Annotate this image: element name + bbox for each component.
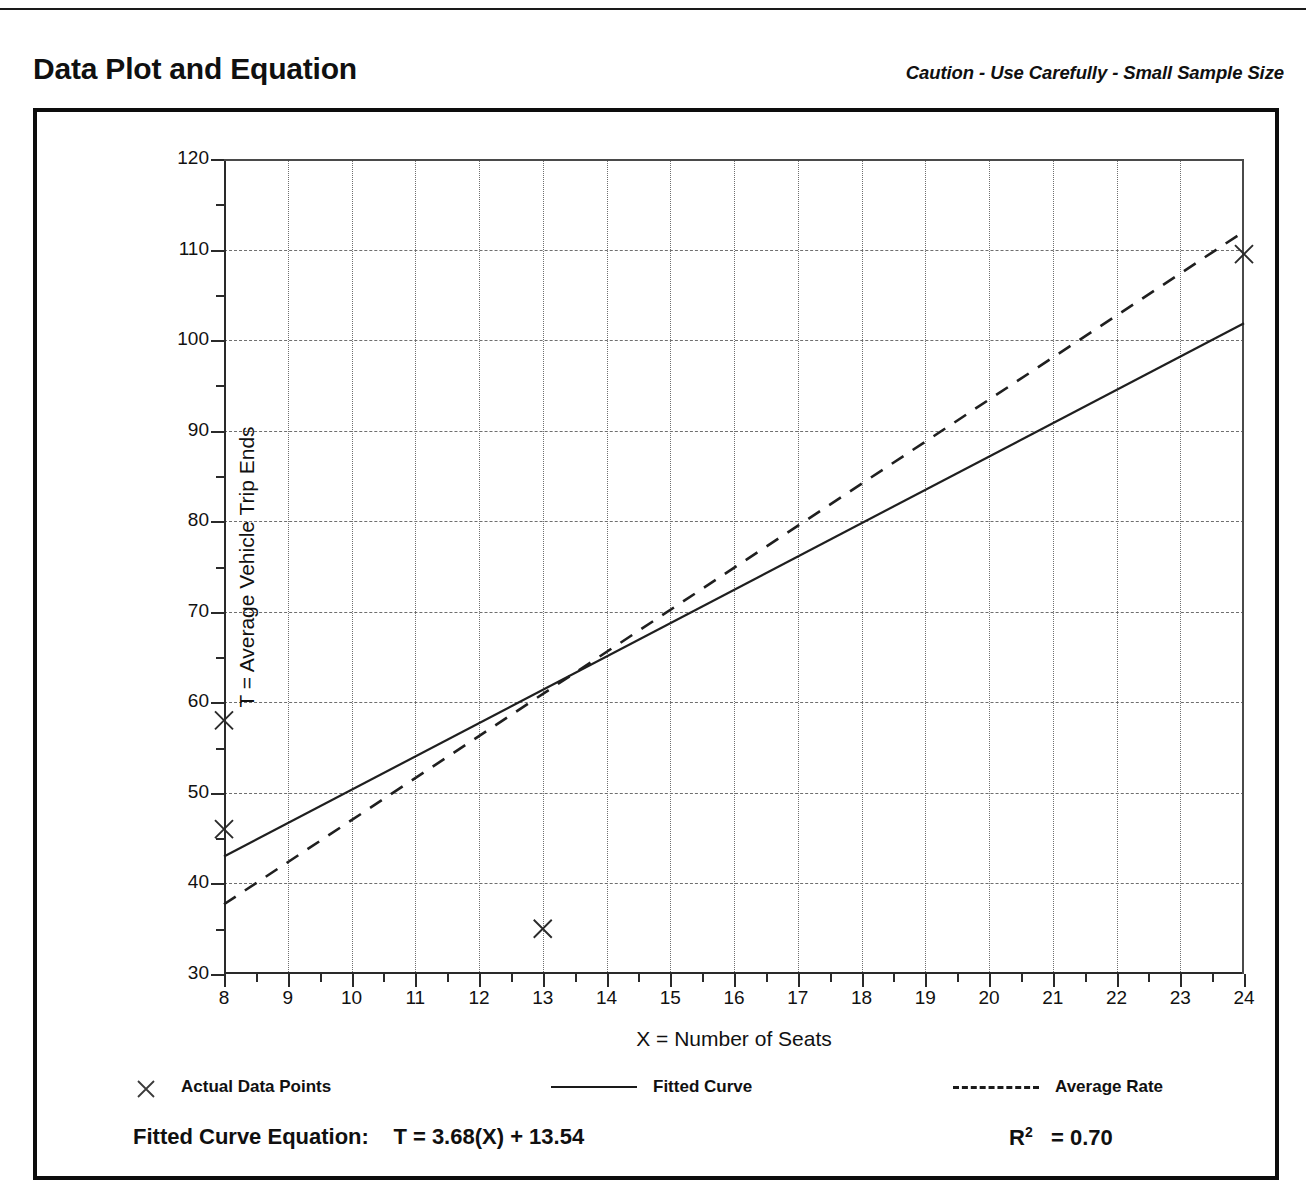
y-tick <box>211 159 224 161</box>
x-tick-minor <box>702 974 704 982</box>
legend-item-average-rate: Average Rate <box>953 1072 1163 1102</box>
y-tick <box>211 340 224 342</box>
caution-note: Caution - Use Carefully - Small Sample S… <box>906 62 1284 84</box>
y-tick-minor <box>216 476 224 478</box>
x-tick-minor <box>320 974 322 982</box>
y-tick <box>211 883 224 885</box>
x-tick <box>862 974 864 987</box>
y-tick-minor <box>216 385 224 387</box>
y-tick-label: 100 <box>177 328 209 350</box>
data-point-marker <box>215 711 233 729</box>
x-axis-title: X = Number of Seats <box>224 1027 1244 1051</box>
plot-area: 30405060708090100110120 8910111213141516… <box>224 159 1244 974</box>
dashed-line-icon <box>953 1086 1039 1089</box>
y-tick-minor <box>216 295 224 297</box>
chart-panel: 30405060708090100110120 8910111213141516… <box>33 108 1279 1180</box>
legend-label-average-rate: Average Rate <box>1055 1077 1163 1097</box>
x-tick <box>670 974 672 987</box>
legend-label-actual-data-points: Actual Data Points <box>181 1077 331 1097</box>
x-tick-label: 22 <box>1106 987 1127 1009</box>
x-tick <box>415 974 417 987</box>
r-squared-exponent: 2 <box>1025 1124 1033 1140</box>
x-tick-minor <box>575 974 577 982</box>
x-tick-label: 14 <box>596 987 617 1009</box>
x-tick <box>1244 974 1246 987</box>
y-tick <box>211 702 224 704</box>
page-top-rule <box>0 0 1306 10</box>
legend-label-fitted-curve: Fitted Curve <box>653 1077 752 1097</box>
x-tick-label: 24 <box>1233 987 1254 1009</box>
x-tick <box>543 974 545 987</box>
r-squared-value: = 0.70 <box>1051 1125 1113 1150</box>
equation-value: T = 3.68(X) + 13.54 <box>393 1124 584 1149</box>
x-tick-label: 10 <box>341 987 362 1009</box>
y-tick-minor <box>216 657 224 659</box>
x-tick-label: 16 <box>723 987 744 1009</box>
chart-legend: Actual Data Points Fitted Curve Average … <box>37 1072 1283 1112</box>
x-tick <box>798 974 800 987</box>
data-point-marker <box>1235 245 1253 263</box>
x-tick-minor <box>1021 974 1023 982</box>
x-tick-label: 12 <box>468 987 489 1009</box>
x-tick <box>1117 974 1119 987</box>
x-tick <box>288 974 290 987</box>
page-title: Data Plot and Equation <box>33 52 357 86</box>
equation-label: Fitted Curve Equation: <box>133 1124 369 1149</box>
r-squared-symbol: R <box>1009 1125 1025 1150</box>
y-tick <box>211 431 224 433</box>
y-tick-label: 120 <box>177 147 209 169</box>
x-tick-label: 18 <box>851 987 872 1009</box>
data-series-layer <box>224 159 1244 974</box>
y-tick-label: 30 <box>188 962 209 984</box>
equation-row: Fitted Curve Equation: T = 3.68(X) + 13.… <box>37 1124 1283 1168</box>
legend-item-actual-data-points: Actual Data Points <box>133 1072 331 1102</box>
y-axis-title: T = Average Vehicle Trip Ends <box>235 426 259 707</box>
x-tick-minor <box>447 974 449 982</box>
x-tick <box>1053 974 1055 987</box>
x-tick <box>479 974 481 987</box>
y-tick-minor <box>216 838 224 840</box>
y-tick-label: 50 <box>188 781 209 803</box>
y-tick-minor <box>216 567 224 569</box>
x-tick-label: 19 <box>915 987 936 1009</box>
y-tick-minor <box>216 929 224 931</box>
x-tick <box>989 974 991 987</box>
x-tick <box>734 974 736 987</box>
x-tick-minor <box>1148 974 1150 982</box>
x-tick-minor <box>766 974 768 982</box>
x-tick <box>607 974 609 987</box>
x-tick <box>224 974 226 987</box>
x-tick <box>925 974 927 987</box>
y-tick-label: 40 <box>188 871 209 893</box>
x-marker-icon <box>133 1076 167 1098</box>
y-tick-label: 70 <box>188 600 209 622</box>
y-tick <box>211 974 224 976</box>
x-tick-label: 20 <box>978 987 999 1009</box>
x-tick-minor <box>1085 974 1087 982</box>
x-tick-minor <box>511 974 513 982</box>
x-tick-label: 9 <box>282 987 293 1009</box>
y-tick <box>211 793 224 795</box>
x-tick-label: 11 <box>405 987 425 1009</box>
x-tick-minor <box>638 974 640 982</box>
y-tick <box>211 521 224 523</box>
data-points <box>215 245 1253 938</box>
chart-header: Data Plot and Equation Caution - Use Car… <box>0 52 1306 102</box>
y-tick-label: 110 <box>179 238 209 260</box>
x-tick-label: 15 <box>660 987 681 1009</box>
x-tick-label: 21 <box>1042 987 1063 1009</box>
legend-item-fitted-curve: Fitted Curve <box>551 1072 752 1102</box>
data-point-marker <box>534 920 552 938</box>
y-tick <box>211 612 224 614</box>
solid-line-icon <box>551 1086 637 1088</box>
x-tick-minor <box>1212 974 1214 982</box>
x-tick <box>352 974 354 987</box>
trend-lines <box>224 231 1244 904</box>
x-tick-label: 17 <box>787 987 808 1009</box>
data-point-marker <box>215 820 233 838</box>
x-tick-minor <box>893 974 895 982</box>
x-tick-minor <box>830 974 832 982</box>
y-tick-label: 90 <box>188 419 209 441</box>
r-squared: R2 = 0.70 <box>1009 1124 1113 1151</box>
x-tick-label: 13 <box>532 987 553 1009</box>
